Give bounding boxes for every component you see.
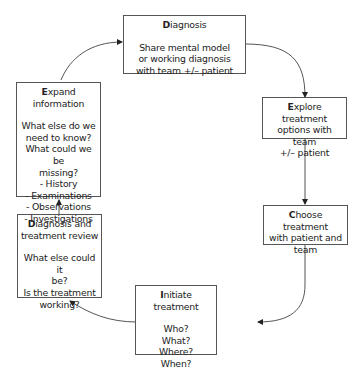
node-line: options with team (265, 124, 344, 147)
node-line: Share mental model (126, 42, 243, 54)
arrow-expand-to-diagnosis (61, 42, 122, 80)
node-line: What? (138, 335, 214, 347)
node-line: Is the treatment (20, 287, 99, 299)
node-line: Who? (138, 323, 214, 335)
node-line: or working diagnosis (126, 53, 243, 65)
node-line: treatment review (20, 230, 99, 242)
node-choose: Choose treatment with patient and team (263, 205, 348, 245)
node-review: Diagnosis and treatment review What else… (17, 214, 102, 298)
arrow-choose-to-initiate (258, 244, 305, 322)
node-diagnosis: Diagnosis Share mental model or working … (123, 15, 246, 74)
node-line: team (266, 244, 345, 256)
node-title: iagnosis (170, 19, 206, 30)
node-line: with patient and (266, 232, 345, 244)
node-line: Where? (138, 346, 214, 358)
node-line: What else do we (19, 120, 98, 132)
node-line: What else could it (20, 252, 99, 275)
node-line: - Examinations (19, 190, 98, 202)
node-line: When? (138, 358, 214, 370)
node-line: be? (20, 275, 99, 287)
node-expand: Expand information What else do we need … (16, 82, 101, 197)
node-line: What could we be (19, 143, 98, 166)
node-line: need to know? (19, 132, 98, 144)
node-line: with team +/– patient (126, 65, 243, 77)
arrow-diagnosis-to-explore (245, 44, 305, 97)
node-line: working? (20, 299, 99, 311)
node-explore: Explore treatment options with team +/– … (262, 97, 347, 139)
node-line: - Observations (19, 201, 98, 213)
node-line: - Investigations (19, 213, 98, 225)
node-title-cap: D (163, 19, 171, 30)
node-line: +/– patient (265, 147, 344, 159)
node-line: missing? (19, 167, 98, 179)
node-initiate: Initiate treatment Who? What? Where? Whe… (135, 285, 217, 355)
node-line: - History (19, 178, 98, 190)
